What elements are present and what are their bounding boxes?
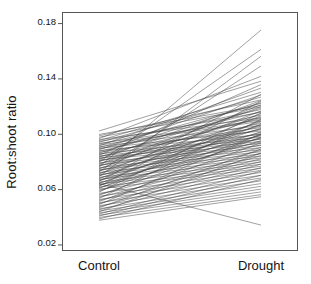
series-line — [99, 110, 261, 145]
y-tick-label: 0.06 — [18, 182, 56, 193]
y-tick-label: 0.02 — [18, 237, 56, 248]
x-category-label-control: Control — [44, 258, 154, 273]
y-tick-label: 0.14 — [18, 71, 56, 82]
series-line — [99, 195, 261, 218]
y-tick-label: 0.10 — [18, 127, 56, 138]
series-line — [99, 66, 261, 172]
y-tick-label: 0.18 — [18, 16, 56, 27]
x-category-label-drought: Drought — [206, 258, 311, 273]
series-lines — [99, 30, 261, 225]
series-line — [99, 117, 261, 161]
series-line — [99, 88, 261, 146]
chart-figure: Root:shoot ratio 0.020.060.100.140.18 Co… — [0, 0, 311, 284]
series-line — [99, 49, 261, 162]
